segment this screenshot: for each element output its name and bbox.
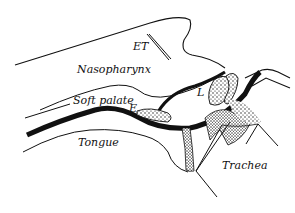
label-et: ET — [133, 41, 148, 52]
soft-palate-lower-outline — [25, 104, 70, 118]
label-l: L — [197, 87, 204, 98]
pharyngeal-wall — [182, 128, 194, 171]
airway-diagram — [0, 0, 295, 213]
nasopharynx-upper-outline — [15, 18, 225, 68]
label-soft-palate: Soft palate — [73, 95, 134, 106]
eustachian-tube-icon — [147, 34, 171, 60]
label-trachea: Trachea — [222, 160, 267, 171]
label-nasopharynx: Nasopharynx — [77, 64, 151, 75]
label-e: E — [129, 103, 137, 114]
label-tongue: Tongue — [78, 137, 119, 148]
